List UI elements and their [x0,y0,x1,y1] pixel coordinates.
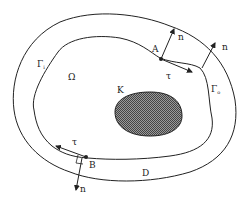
domain-diagram: Ω K D Γi Γo A n n τ B τ n [0,0,248,201]
label-k: K [117,85,124,95]
label-point-a: A [151,44,159,54]
label-omega: Ω [68,72,75,82]
label-d: D [142,168,149,178]
label-tangent-a: τ [166,71,171,81]
normal-arrow-right [202,43,215,68]
label-normal-right: n [222,42,228,52]
label-point-b: B [89,160,96,170]
label-normal-b: n [80,184,86,194]
label-normal-a: n [178,32,184,42]
diagram-canvas: Ω K D Γi Γo A n n τ B τ n [0,0,248,201]
label-gamma-outer: Γo [211,84,220,95]
label-gamma-inner: Γi [37,59,45,70]
obstacle-k [115,92,182,136]
normal-arrow-a [161,29,174,59]
label-tangent-b: τ [72,137,77,147]
